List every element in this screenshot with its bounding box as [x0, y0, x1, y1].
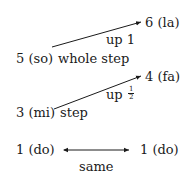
- note-1-do-right: 1 (do): [140, 143, 179, 156]
- note-5-so: 5 (so): [16, 52, 53, 65]
- interval-whole-step: whole step: [58, 52, 129, 65]
- direction-up-half: up: [106, 88, 123, 101]
- note-4-fa: 4 (fa): [145, 70, 180, 83]
- fraction-denominator: 2: [128, 94, 134, 101]
- note-3-mi: 3 (mi): [16, 106, 55, 119]
- note-6-la: 6 (la): [145, 16, 179, 29]
- interval-step: step: [60, 106, 88, 119]
- fraction-one-half: 1 2: [128, 86, 134, 101]
- note-1-do-left: 1 (do): [16, 143, 55, 156]
- direction-up-1: up 1: [106, 33, 135, 46]
- interval-same: same: [79, 160, 113, 173]
